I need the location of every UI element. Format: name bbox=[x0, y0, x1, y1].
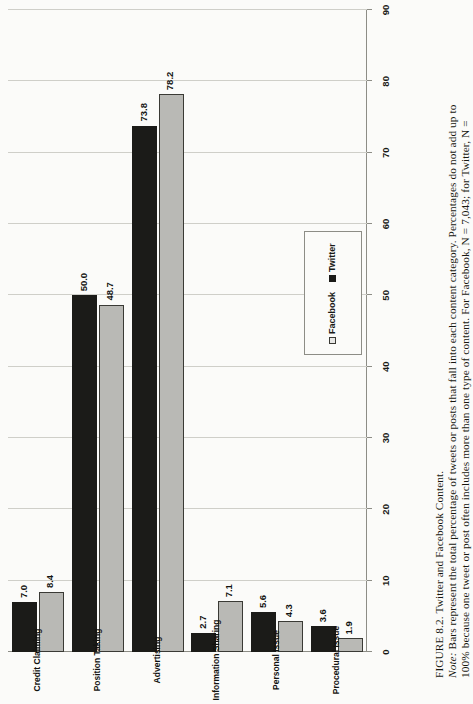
value-label: 5.6 bbox=[257, 595, 268, 608]
axis-tick-label-40: 40 bbox=[380, 352, 391, 382]
axis-tick-20 bbox=[367, 508, 372, 509]
value-label: 4.3 bbox=[283, 604, 294, 617]
chart-legend: FacebookTwitter bbox=[304, 231, 362, 355]
axis-tick-label-50: 50 bbox=[380, 280, 391, 310]
caption-line-note-1: Note: Bars represent the total percentag… bbox=[447, 8, 458, 678]
category-label: Position Taking bbox=[92, 590, 102, 704]
value-label: 8.4 bbox=[44, 575, 55, 588]
bar-facebook-advertising bbox=[159, 94, 184, 652]
value-label: 7.0 bbox=[18, 585, 29, 598]
value-label: 73.8 bbox=[138, 103, 149, 122]
category-group: 8.47.0Credit Claiming bbox=[8, 10, 68, 652]
axis-tick-50 bbox=[367, 294, 372, 295]
axis-tick-40 bbox=[367, 366, 372, 367]
square-outline-icon bbox=[329, 337, 336, 344]
value-label: 48.7 bbox=[104, 282, 115, 301]
bar-facebook-information-sharing bbox=[218, 601, 243, 652]
category-label: Credit Claiming bbox=[32, 590, 42, 704]
figure-caption: FIGURE 8.2. Twitter and Facebook Content… bbox=[431, 8, 471, 678]
note-label: Note: bbox=[446, 652, 458, 678]
bar-twitter-advertising bbox=[132, 126, 157, 652]
category-group: 48.750.0Position Taking bbox=[68, 10, 128, 652]
axis-tick-label-90: 90 bbox=[380, 0, 391, 25]
caption-line-title: FIGURE 8.2. Twitter and Facebook Content… bbox=[434, 8, 445, 678]
bar-facebook-personal-issue bbox=[278, 621, 303, 652]
value-label: 3.6 bbox=[317, 609, 328, 622]
value-label: 7.1 bbox=[223, 584, 234, 597]
axis-tick-label-70: 70 bbox=[380, 138, 391, 168]
axis-tick-10 bbox=[367, 580, 372, 581]
legend-item-twitter: Twitter bbox=[327, 243, 337, 282]
axis-tick-70 bbox=[367, 152, 372, 153]
bar-facebook-procedural-issue bbox=[338, 638, 363, 652]
category-label: Procedural Issue bbox=[331, 590, 341, 704]
caption-line-note-2: 100% because one tweet or post often inc… bbox=[460, 8, 471, 678]
category-group: 7.12.7Information Sharing bbox=[188, 10, 248, 652]
value-label: 50.0 bbox=[78, 273, 89, 292]
axis-tick-30 bbox=[367, 437, 372, 438]
axis-tick-label-20: 20 bbox=[380, 494, 391, 524]
figure-number: FIGURE 8.2. bbox=[433, 616, 445, 678]
figure-title: Twitter and Facebook Content. bbox=[433, 471, 445, 614]
value-label: 1.9 bbox=[343, 621, 354, 634]
category-group: 4.35.6Personal Issue bbox=[247, 10, 307, 652]
axis-tick-label-80: 80 bbox=[380, 66, 391, 96]
axis-tick-label-10: 10 bbox=[380, 566, 391, 596]
axis-tick-0 bbox=[367, 651, 372, 652]
bar-facebook-position-taking bbox=[99, 305, 124, 652]
bar-facebook-credit-claiming bbox=[39, 592, 64, 652]
legend-label: Facebook bbox=[327, 292, 337, 334]
bar-chart: 01020304050607080908.47.0Credit Claiming… bbox=[8, 10, 400, 652]
category-label: Advertising bbox=[152, 590, 162, 704]
axis-tick-label-60: 60 bbox=[380, 209, 391, 239]
axis-tick-80 bbox=[367, 80, 372, 81]
axis-tick-90 bbox=[367, 9, 372, 10]
category-group: 78.273.8Advertising bbox=[128, 10, 188, 652]
square-filled-icon bbox=[329, 275, 336, 282]
legend-label: Twitter bbox=[327, 243, 337, 272]
axis-tick-label-30: 30 bbox=[380, 423, 391, 453]
legend-item-facebook: Facebook bbox=[327, 292, 337, 344]
category-label: Personal Issue bbox=[271, 590, 281, 704]
axis-tick-60 bbox=[367, 223, 372, 224]
value-label: 78.2 bbox=[164, 72, 175, 91]
category-label: Information Sharing bbox=[211, 590, 221, 704]
axis-tick-label-0: 0 bbox=[380, 637, 391, 667]
value-label: 2.7 bbox=[197, 616, 208, 629]
note-text-2: 100% because one tweet or post often inc… bbox=[459, 120, 471, 678]
note-text-1: Bars represent the total percentage of t… bbox=[446, 104, 458, 649]
